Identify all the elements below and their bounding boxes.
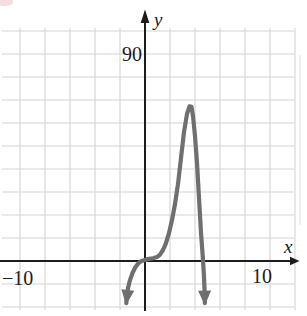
y-axis-arrowhead (141, 10, 150, 24)
coordinate-plane: y x 90 −10 10 (0, 0, 307, 316)
page-edge-artifact (299, 55, 301, 225)
curve-arrowhead-right (198, 291, 211, 306)
x-axis-title: x (283, 236, 293, 257)
graph-figure: y x 90 −10 10 (0, 0, 307, 316)
y-axis-title: y (152, 9, 163, 30)
x-tick-label-10: 10 (252, 265, 272, 287)
x-tick-label-neg10: −10 (2, 267, 33, 289)
y-tick-label-90: 90 (122, 43, 142, 65)
function-curve (126, 106, 205, 303)
